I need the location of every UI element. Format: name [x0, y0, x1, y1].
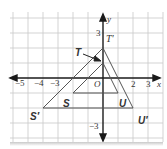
origin-label: O [94, 79, 101, 89]
label-S-prime: S′ [30, 111, 40, 122]
label-T: T [75, 47, 82, 58]
frame-shadow [10, 142, 163, 146]
x-axis [10, 75, 160, 81]
label-U-prime: U′ [138, 115, 148, 126]
arrow-to-T-icon [83, 54, 101, 61]
x-tick-neg4: −4 [34, 78, 44, 88]
x-tick-2: 2 [131, 79, 136, 89]
y-axis-label: y [106, 14, 111, 24]
label-U: U [119, 98, 127, 109]
coordinate-diagram: −5 −4 −3 2 3 3 −3 x y O T S U T′ S′ U′ [0, 0, 167, 149]
x-tick-neg5: −5 [15, 78, 25, 88]
x-tick-neg3: −3 [50, 78, 60, 88]
x-axis-label: x [156, 79, 161, 89]
y-tick-neg3: −3 [89, 121, 99, 131]
x-tick-3: 3 [146, 79, 151, 89]
label-S: S [63, 98, 70, 109]
label-T-prime: T′ [106, 33, 115, 44]
y-tick-3: 3 [96, 28, 101, 38]
